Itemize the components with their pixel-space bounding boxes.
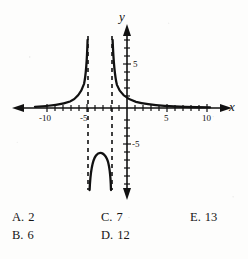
y-tick-label-neg5: -5 bbox=[132, 139, 140, 149]
answer-choice-e-letter: E. bbox=[190, 210, 201, 224]
x-tick-label-neg10: -10 bbox=[39, 113, 51, 123]
y-axis bbox=[123, 24, 131, 200]
x-tick-label-neg5: -5 bbox=[80, 113, 88, 123]
answer-choice-c-value: 7 bbox=[116, 210, 122, 224]
answer-choice-d-value: 12 bbox=[117, 228, 130, 242]
answer-choice-d-letter: D. bbox=[101, 228, 113, 242]
answer-choice-c-letter: C. bbox=[101, 210, 112, 224]
question-figure-page: y x -10 -5 5 10 5 -5 A.2 B.6 C.7 D.12 E.… bbox=[0, 0, 248, 259]
answer-choice-e-value: 13 bbox=[205, 210, 218, 224]
curve-left-branch bbox=[35, 40, 88, 107]
answer-choice-e[interactable]: E.13 bbox=[190, 210, 217, 225]
x-tick-label-10: 10 bbox=[202, 113, 211, 123]
y-tick-label-5: 5 bbox=[133, 59, 138, 69]
answer-choices: A.2 B.6 C.7 D.12 E.13 bbox=[0, 206, 248, 259]
curve-middle-branch bbox=[90, 153, 111, 190]
answer-choice-b-letter: B. bbox=[12, 228, 23, 242]
answer-choice-a[interactable]: A.2 bbox=[12, 210, 34, 225]
answer-choice-a-value: 2 bbox=[28, 210, 34, 224]
answer-choice-b[interactable]: B.6 bbox=[12, 228, 34, 243]
answer-choice-d[interactable]: D.12 bbox=[101, 228, 130, 243]
x-tick-label-5: 5 bbox=[164, 113, 169, 123]
answer-choice-a-letter: A. bbox=[12, 210, 24, 224]
y-axis-label: y bbox=[119, 9, 125, 25]
answer-choice-c[interactable]: C.7 bbox=[101, 210, 123, 225]
coordinate-plane-svg bbox=[0, 0, 248, 205]
graph-figure: y x -10 -5 5 10 5 -5 bbox=[0, 0, 248, 205]
x-axis-label: x bbox=[229, 99, 235, 115]
answer-choice-b-value: 6 bbox=[27, 228, 33, 242]
